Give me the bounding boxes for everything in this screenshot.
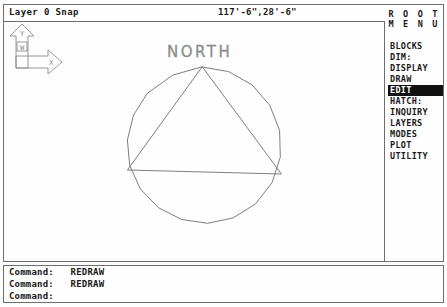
command-input-line[interactable]: Command: [4,290,443,302]
inscribed-triangle [127,67,281,174]
drawing-canvas[interactable]: NORTH [4,22,385,262]
menu-item-blocks[interactable]: BLOCKS [388,41,443,52]
command-history-line-2: Command: REDRAW [4,278,443,290]
menu-item-plot[interactable]: PLOT [388,140,443,151]
menu-item-edit[interactable]: EDIT [388,85,443,96]
screen-menu-title-line-1: R O O T [385,9,443,19]
ucs-world-coordinate-icon: Y W X [4,22,70,74]
command-window[interactable]: Command: REDRAW Command: REDRAW Command: [3,265,444,303]
screen-menu-title-line-2: M E N U [385,19,443,29]
command-text-1: REDRAW [71,267,105,277]
ucs-x-label: X [49,59,54,67]
screen-menu-panel: R O O T M E N U BLOCKS DIM: DISPLAY DRAW… [385,5,443,261]
drawing-window-frame: Layer 0 Snap 117'-6",28'-6" NORTH [3,4,444,262]
screen-menu-list: BLOCKS DIM: DISPLAY DRAW EDIT HATCH: INQ… [385,41,443,162]
status-coordinate-readout[interactable]: 117'-6",28'-6" [218,7,297,17]
command-prompt-2: Command: [9,279,54,289]
menu-item-layers[interactable]: LAYERS [388,118,443,129]
menu-item-modes[interactable]: MODES [388,129,443,140]
menu-item-inquiry[interactable]: INQUIRY [388,107,443,118]
menu-item-draw[interactable]: DRAW [388,74,443,85]
menu-item-hatch[interactable]: HATCH: [388,96,443,107]
polygon-circle-outline [127,67,280,223]
cad-application-window: Layer 0 Snap 117'-6",28'-6" NORTH [0,0,447,307]
ucs-y-label: Y [20,30,25,38]
status-bar: Layer 0 Snap 117'-6",28'-6" [4,5,385,22]
menu-item-utility[interactable]: UTILITY [388,151,443,162]
command-prompt-1: Command: [9,267,54,277]
command-text-2: REDRAW [71,279,105,289]
screen-menu-title: R O O T M E N U [385,9,443,29]
command-prompt-active: Command: [9,291,54,301]
ucs-x-axis-arrow [16,50,62,74]
menu-item-dim[interactable]: DIM: [388,52,443,63]
status-layer-indicator[interactable]: Layer 0 Snap [9,7,79,17]
command-history-line-1: Command: REDRAW [4,266,443,278]
menu-item-display[interactable]: DISPLAY [388,63,443,74]
